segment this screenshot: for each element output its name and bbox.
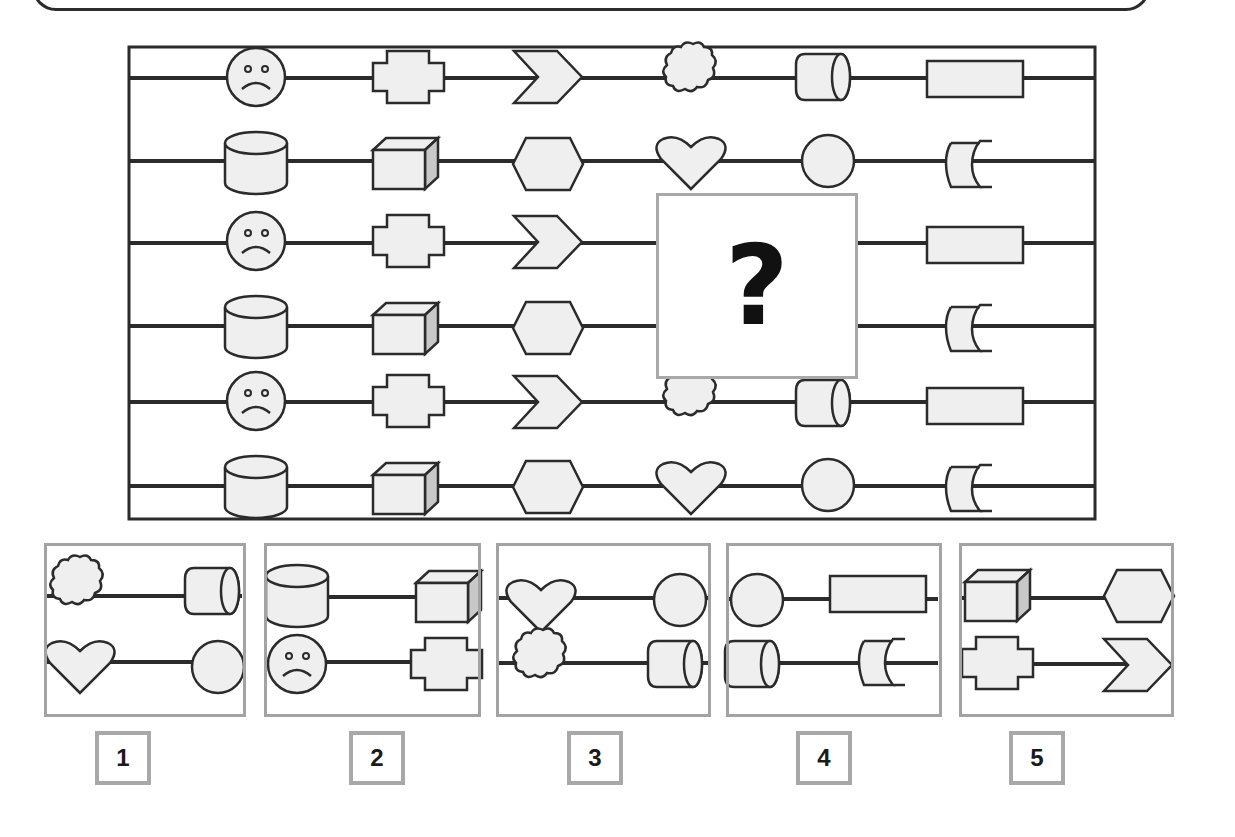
hexagon-icon (513, 302, 583, 354)
circle-icon (802, 459, 854, 511)
cylinder-icon (225, 296, 287, 358)
cube-icon (373, 303, 438, 354)
hexagon-icon (513, 461, 583, 513)
cylinder-icon (225, 456, 287, 518)
option-5-label[interactable]: 5 (1009, 731, 1065, 785)
option-1-label[interactable]: 1 (95, 731, 151, 785)
hexagon-icon (513, 138, 583, 190)
option-2-panel[interactable] (264, 543, 481, 717)
rectangle-icon (927, 388, 1023, 424)
horizontal-cylinder-icon (796, 54, 850, 100)
cube-icon (373, 463, 438, 514)
option-4-label[interactable]: 4 (796, 731, 852, 785)
question-mark: ? (725, 231, 789, 341)
cylinder-icon (225, 132, 287, 194)
option-3-panel[interactable] (496, 543, 711, 717)
option-3-label[interactable]: 3 (567, 731, 623, 785)
option-2-label[interactable]: 2 (349, 731, 405, 785)
puzzle-grid-frame (129, 47, 1095, 519)
cloud-icon (663, 43, 716, 92)
option-4-panel[interactable] (726, 543, 942, 717)
circle-icon (802, 135, 854, 187)
option-1-panel[interactable] (44, 543, 246, 717)
sad-face-icon (227, 212, 285, 270)
missing-piece-box: ? (656, 193, 858, 379)
rectangle-icon (927, 227, 1023, 263)
sad-face-icon (227, 48, 285, 106)
cube-icon (373, 138, 438, 189)
sad-face-icon (227, 372, 285, 430)
rectangle-icon (927, 61, 1023, 97)
horizontal-cylinder-icon (796, 380, 850, 426)
option-5-panel[interactable] (959, 543, 1174, 717)
